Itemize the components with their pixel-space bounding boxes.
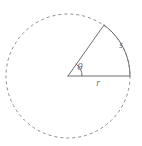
- sector-arc: [104, 25, 130, 76]
- label-arc-length-s: s: [119, 40, 123, 50]
- radius-line-angled: [68, 25, 104, 76]
- circle-sector-diagram: θ s r: [0, 0, 142, 146]
- label-theta: θ: [77, 60, 83, 72]
- label-radius-r: r: [96, 78, 100, 88]
- figure-container: θ s r: [0, 0, 142, 146]
